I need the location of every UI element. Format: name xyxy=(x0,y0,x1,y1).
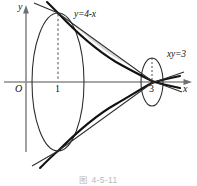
hyperbola-equation-label: xy=3 xyxy=(167,50,186,60)
y-axis-label: y xyxy=(18,2,22,12)
figure-caption: 图 4-5-11 xyxy=(0,176,197,185)
figure-solid-of-revolution: y x O 1 3 y=4-x xy=3 图 4-5-11 xyxy=(0,0,197,186)
y-axis-arrow xyxy=(23,5,29,14)
line-upper xyxy=(34,3,182,92)
line-equation-label: y=4-x xyxy=(74,10,96,20)
hyperbola-lower-curve xyxy=(40,76,180,168)
x-axis-label: x xyxy=(183,84,187,94)
revolution-plot-canvas xyxy=(0,0,197,186)
x-tick-label-1: 1 xyxy=(55,84,60,94)
hyperbola-upper-curve xyxy=(47,2,180,88)
x-tick-label-3: 3 xyxy=(149,84,154,94)
origin-label: O xyxy=(15,84,22,94)
